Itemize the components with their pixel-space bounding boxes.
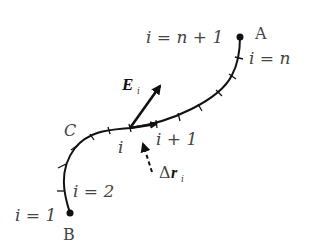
label-i-equals-1: i = 1 [15, 205, 56, 225]
label-i: i [118, 137, 123, 157]
label-r: r [171, 164, 178, 181]
label-C: C [64, 121, 76, 140]
label-i-equals-n-plus-1: i = n + 1 [146, 27, 223, 47]
endpoint-B-dot [67, 210, 74, 217]
label-E: E [121, 75, 133, 94]
displacement-arrow [143, 144, 152, 172]
label-i-equals-2: i = 2 [73, 181, 114, 201]
label-r-subscript: i [181, 174, 184, 184]
endpoint-A-dot [237, 34, 244, 41]
label-E-subscript: i [137, 86, 140, 96]
label-B: B [63, 225, 75, 244]
path-diagram: i = n + 1 A i = n E i C i i + 1 Δ r i i … [0, 0, 315, 244]
label-i-equals-n: i = n [249, 48, 290, 68]
label-i-plus-1: i + 1 [156, 129, 197, 149]
label-A: A [254, 24, 267, 43]
label-delta: Δ [159, 163, 171, 182]
field-vector-arrow [130, 86, 160, 128]
diagram-canvas: i = n + 1 A i = n E i C i i + 1 Δ r i i … [0, 0, 315, 244]
